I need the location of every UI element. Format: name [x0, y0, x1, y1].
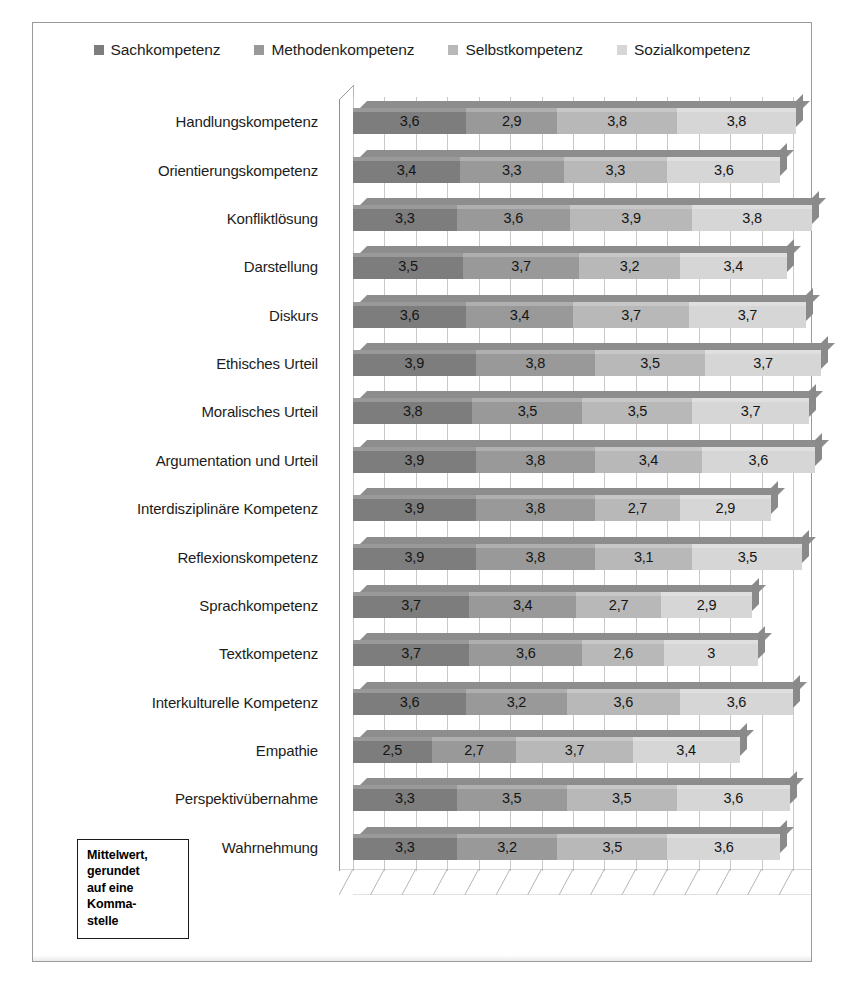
bar-segment[interactable]: 3,8	[353, 398, 472, 424]
bar-segment[interactable]: 3,4	[466, 302, 573, 328]
bar-segment[interactable]: 3,5	[692, 544, 802, 570]
bar-end-cap	[793, 675, 800, 708]
bar-value-label: 3,5	[612, 790, 632, 806]
bar-segment[interactable]: 3,8	[557, 108, 676, 134]
bar-segment[interactable]: 3,5	[567, 785, 677, 811]
bar-segment[interactable]: 3,6	[567, 689, 680, 715]
bar-top-face	[360, 295, 820, 302]
legend-swatch-icon	[254, 45, 264, 55]
legend-swatch-icon	[448, 45, 458, 55]
bar-row: 3,73,62,63	[353, 640, 793, 666]
bar-value-label: 3,9	[621, 210, 641, 226]
bar-segment[interactable]: 3,6	[457, 205, 570, 231]
bar-segment[interactable]: 3,5	[353, 253, 463, 279]
bar-row: 3,63,23,63,6	[353, 689, 793, 715]
legend-item-sachkompetenz[interactable]: Sachkompetenz	[94, 41, 221, 59]
bar-segment[interactable]: 3,7	[689, 302, 805, 328]
bar-value-label: 3,4	[723, 258, 743, 274]
bar-segment[interactable]: 3	[664, 640, 758, 666]
bar-segment[interactable]: 3,5	[457, 785, 567, 811]
bar-segment[interactable]: 3,5	[472, 398, 582, 424]
bar-value-label: 3,5	[628, 403, 648, 419]
bar-segment[interactable]: 2,9	[680, 495, 771, 521]
bar-segment[interactable]: 3,1	[595, 544, 692, 570]
floor-depth-ticks	[339, 869, 811, 895]
bar-segment[interactable]: 3,6	[677, 785, 790, 811]
axis-wall-front-edge	[339, 99, 340, 871]
bar-segment[interactable]: 3,2	[457, 834, 558, 860]
bar-segment[interactable]: 3,4	[680, 253, 787, 279]
bar-value-label: 3,4	[510, 307, 530, 323]
bar-segment[interactable]: 3,6	[353, 689, 466, 715]
bar-segment[interactable]: 3,7	[516, 737, 632, 763]
bar-segment[interactable]: 3,9	[353, 544, 476, 570]
category-label: Textkompetenz	[219, 645, 318, 662]
bar-segment[interactable]: 3,6	[469, 640, 582, 666]
bar-segment[interactable]: 3,2	[466, 689, 567, 715]
bar-segment[interactable]: 3,3	[353, 205, 457, 231]
bar-segment[interactable]: 3,7	[573, 302, 689, 328]
bar-segment[interactable]: 3,4	[353, 157, 460, 183]
bar-segment[interactable]: 2,7	[576, 592, 661, 618]
bar-segment[interactable]: 3,8	[677, 108, 796, 134]
bar-segment[interactable]: 3,9	[353, 495, 476, 521]
bar-value-label: 3,6	[749, 452, 769, 468]
bar-segment[interactable]: 3,8	[692, 205, 811, 231]
bar-segment[interactable]: 3,7	[705, 350, 821, 376]
bar-segment[interactable]: 3,4	[633, 737, 740, 763]
bar-segment[interactable]: 3,8	[476, 544, 595, 570]
bar-segment[interactable]: 3,6	[667, 834, 780, 860]
bar-segment[interactable]: 2,9	[661, 592, 752, 618]
bar-segment[interactable]: 3,5	[595, 350, 705, 376]
bar-segment[interactable]: 3,6	[353, 302, 466, 328]
bar-segment[interactable]: 3,9	[353, 447, 476, 473]
bar-segment[interactable]: 3,2	[579, 253, 680, 279]
category-label: Interdisziplinäre Kompetenz	[137, 500, 318, 517]
bar-segment[interactable]: 3,5	[582, 398, 692, 424]
plot-area: 3,62,93,83,83,43,33,33,63,33,63,93,83,53…	[353, 85, 793, 915]
bar-value-label: 3,4	[397, 162, 417, 178]
bar-segment[interactable]: 3,3	[353, 785, 457, 811]
value-axis-wall	[339, 85, 354, 871]
bar-value-label: 3,9	[405, 355, 425, 371]
bar-segment[interactable]: 3,3	[460, 157, 564, 183]
bar-segment[interactable]: 3,4	[469, 592, 576, 618]
category-label: Moralisches Urteil	[202, 403, 319, 420]
legend-item-selbstkompetenz[interactable]: Selbstkompetenz	[448, 41, 582, 59]
bar-segment[interactable]: 3,8	[476, 350, 595, 376]
bar-segment[interactable]: 3,3	[353, 834, 457, 860]
bar-end-cap	[796, 94, 803, 127]
bar-segment[interactable]: 3,7	[692, 398, 808, 424]
bar-value-label: 3,4	[639, 452, 659, 468]
legend-item-sozialkompetenz[interactable]: Sozialkompetenz	[617, 41, 751, 59]
bar-value-label: 3,8	[727, 113, 747, 129]
bar-segment[interactable]: 3,9	[570, 205, 693, 231]
bar-segment[interactable]: 2,6	[582, 640, 664, 666]
note-line: auf eine	[87, 880, 180, 897]
category-label: Sprachkompetenz	[199, 596, 318, 613]
category-label: Reflexionskompetenz	[177, 548, 318, 565]
bar-segment[interactable]: 2,5	[353, 737, 432, 763]
bar-segment[interactable]: 3,7	[463, 253, 579, 279]
bar-value-label: 2,6	[613, 645, 633, 661]
bar-segment[interactable]: 3,6	[353, 108, 466, 134]
bar-end-cap	[806, 288, 813, 321]
bar-value-label: 3,7	[753, 355, 773, 371]
bar-segment[interactable]: 3,8	[476, 495, 595, 521]
bar-segment[interactable]: 3,6	[667, 157, 780, 183]
bar-segment[interactable]: 3,6	[702, 447, 815, 473]
bar-segment[interactable]: 3,5	[557, 834, 667, 860]
bar-segment[interactable]: 3,8	[476, 447, 595, 473]
bar-segment[interactable]: 3,6	[680, 689, 793, 715]
legend-item-methodenkompetenz[interactable]: Methodenkompetenz	[254, 41, 414, 59]
bar-segment[interactable]: 2,9	[466, 108, 557, 134]
bar-segment[interactable]: 2,7	[595, 495, 680, 521]
bar-segment[interactable]: 3,4	[595, 447, 702, 473]
bar-segment[interactable]: 3,7	[353, 640, 469, 666]
bar-segment[interactable]: 3,9	[353, 350, 476, 376]
bar-segment[interactable]: 3,7	[353, 592, 469, 618]
bar-segment[interactable]: 3,3	[564, 157, 668, 183]
bar-segment[interactable]: 2,7	[432, 737, 517, 763]
bar-value-label: 3,2	[497, 839, 517, 855]
bar-value-label: 3,7	[741, 403, 761, 419]
